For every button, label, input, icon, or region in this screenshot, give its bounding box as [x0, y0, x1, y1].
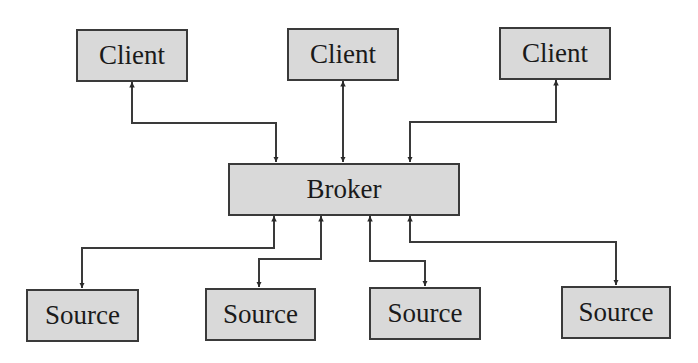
source-node-1: Source — [26, 289, 139, 342]
source-node-4: Source — [561, 286, 671, 339]
diagram-canvas: Client Client Client Broker Source Sourc… — [0, 0, 698, 363]
client-label: Client — [99, 40, 165, 71]
source-label: Source — [579, 297, 654, 328]
client-node-2: Client — [287, 28, 399, 81]
source-node-2: Source — [205, 288, 316, 341]
source-label: Source — [388, 298, 463, 329]
client-label: Client — [310, 39, 376, 70]
edge-broker-source3 — [370, 216, 425, 286]
edge-broker-source1 — [82, 216, 274, 288]
broker-label: Broker — [307, 174, 382, 205]
edge-broker-source2 — [259, 216, 321, 287]
client-label: Client — [522, 38, 588, 69]
broker-node: Broker — [228, 163, 460, 216]
source-label: Source — [45, 300, 120, 331]
source-label: Source — [223, 299, 298, 330]
source-node-3: Source — [369, 287, 481, 340]
client-node-1: Client — [76, 29, 188, 82]
edge-client1-broker — [132, 82, 276, 162]
edge-client3-broker — [410, 80, 556, 162]
client-node-3: Client — [499, 27, 611, 80]
edge-broker-source4 — [410, 216, 616, 285]
